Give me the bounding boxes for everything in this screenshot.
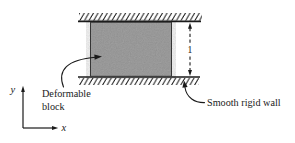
deformable-block-texture	[91, 22, 172, 76]
top-wall	[78, 13, 202, 21]
y-axis-arrow-icon	[21, 86, 25, 92]
x-axis-arrow-icon	[52, 126, 58, 130]
top-wall-hatching	[79, 13, 202, 21]
y-axis-label: y	[10, 84, 16, 95]
dimension-arrow-up-icon	[188, 23, 192, 29]
mechanics-diagram: 1 y x Deformable block Smooth rigid wall	[0, 0, 295, 143]
bottom-wall-hatching	[79, 78, 199, 85]
figure-canvas: 1 y x Deformable block Smooth rigid wall	[0, 0, 295, 143]
height-dimension: 1	[188, 23, 193, 76]
dimension-arrow-down-icon	[188, 70, 192, 76]
smooth-rigid-wall-leader	[185, 87, 205, 103]
deformable-block-label-line1: Deformable	[42, 88, 91, 99]
x-axis-label: x	[61, 122, 67, 133]
smooth-rigid-wall-label: Smooth rigid wall	[207, 97, 281, 108]
deformable-block-label-line2: block	[42, 101, 66, 112]
dimension-value-label: 1	[188, 44, 193, 55]
bottom-wall	[78, 77, 200, 85]
